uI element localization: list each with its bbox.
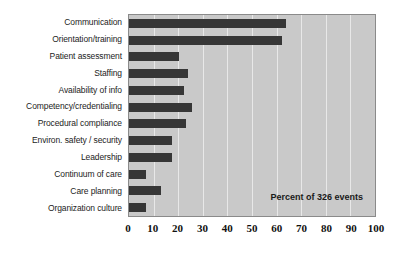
bar-row: [129, 86, 375, 95]
value-tick-label: 10: [147, 222, 158, 234]
plot-area: Percent of 326 events: [128, 14, 376, 217]
category-label: Communication: [0, 18, 126, 27]
category-label: Patient assessment: [0, 52, 126, 61]
category-label: Continuum of care: [0, 170, 126, 179]
bar-row: [129, 103, 375, 112]
bar-row: [129, 69, 375, 78]
value-tick-label: 30: [197, 222, 208, 234]
value-tick-label: 70: [296, 222, 307, 234]
category-axis: Communication Orientation/training Patie…: [0, 14, 126, 217]
bars-layer: [129, 15, 375, 216]
bar: [129, 136, 172, 145]
bar-chart: Communication Orientation/training Patie…: [0, 0, 400, 272]
category-label: Availability of info: [0, 86, 126, 95]
category-label: Competency/credentialing: [0, 102, 126, 111]
bar-row: [129, 170, 375, 179]
value-tick-label: 40: [222, 222, 233, 234]
bar: [129, 36, 282, 45]
category-label: Procedural compliance: [0, 119, 126, 128]
category-label: Orientation/training: [0, 35, 126, 44]
gridline: [375, 15, 376, 216]
value-tick-label: 20: [172, 222, 183, 234]
value-axis: 0102030405060708090100: [128, 222, 376, 240]
value-tick-label: 50: [247, 222, 258, 234]
category-label: Environ. safety / security: [0, 136, 126, 145]
value-tick-label: 0: [125, 222, 131, 234]
bar: [129, 103, 192, 112]
bar: [129, 203, 146, 212]
bar-row: [129, 119, 375, 128]
category-label: Organization culture: [0, 204, 126, 213]
value-tick-label: 60: [271, 222, 282, 234]
value-tick-label: 90: [346, 222, 357, 234]
bar-row: [129, 19, 375, 28]
value-tick-label: 100: [368, 222, 385, 234]
bar: [129, 86, 184, 95]
bar-row: [129, 153, 375, 162]
bar-row: [129, 203, 375, 212]
category-label: Care planning: [0, 187, 126, 196]
plot-annotation: Percent of 326 events: [270, 192, 363, 202]
bar: [129, 170, 146, 179]
bar: [129, 69, 188, 78]
category-label: Leadership: [0, 153, 126, 162]
bar: [129, 153, 172, 162]
bar: [129, 119, 186, 128]
bar-row: [129, 36, 375, 45]
category-label: Staffing: [0, 69, 126, 78]
bar: [129, 19, 286, 28]
bar: [129, 52, 179, 61]
value-tick-label: 80: [321, 222, 332, 234]
bar: [129, 186, 161, 195]
bar-row: [129, 52, 375, 61]
bar-row: [129, 136, 375, 145]
